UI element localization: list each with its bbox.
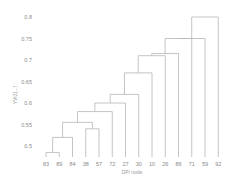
leaf-label: 86	[175, 161, 181, 167]
leaf-label: 30	[136, 161, 142, 167]
leaf-label: 10	[149, 161, 155, 167]
y-tick-label: 0.65	[21, 79, 32, 85]
leaf-label: 57	[96, 161, 102, 167]
dendrogram-links	[46, 17, 218, 157]
leaf-label: 71	[189, 161, 195, 167]
leaf-label: 83	[43, 161, 49, 167]
y-axis: 0.50.550.60.650.70.750.8	[21, 14, 32, 149]
leaf-label: 72	[109, 161, 115, 167]
y-tick-label: 0.75	[21, 36, 32, 42]
y-axis-label: YVIZ(...)	[12, 85, 18, 104]
leaf-label: 27	[122, 161, 128, 167]
leaf-label: 84	[69, 161, 75, 167]
leaf-label: 26	[162, 161, 168, 167]
y-tick-label: 0.6	[24, 100, 32, 106]
y-tick-label: 0.8	[24, 14, 32, 20]
leaf-label: 59	[202, 161, 208, 167]
leaf-label: 38	[83, 161, 89, 167]
y-tick-label: 0.55	[21, 122, 32, 128]
x-axis-label: DPi node	[122, 169, 143, 175]
dendrogram-chart: 0.50.550.60.650.70.750.8 838984385772273…	[0, 0, 237, 182]
leaf-label: 89	[56, 161, 62, 167]
x-axis-labels: 8389843857722730102686715992	[43, 161, 221, 167]
y-tick-label: 0.7	[24, 57, 32, 63]
y-tick-label: 0.5	[24, 143, 32, 149]
leaf-label: 92	[215, 161, 221, 167]
